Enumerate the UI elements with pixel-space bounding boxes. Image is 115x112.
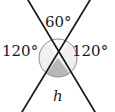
geometry-diagram: 60° 120° 120° h [0,0,115,112]
angle-label-left: 120° [2,44,38,59]
height-label: h [53,89,63,104]
angle-label-right: 120° [72,44,108,59]
angle-label-top: 60° [45,15,72,30]
